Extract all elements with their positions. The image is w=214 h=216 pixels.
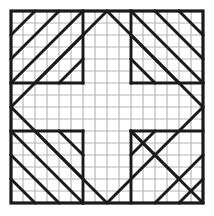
quilt-pattern-figure bbox=[0, 0, 214, 216]
figure-container bbox=[0, 0, 214, 216]
